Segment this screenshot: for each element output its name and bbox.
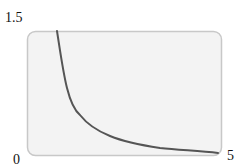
- y-axis-max-label: 1.5: [5, 11, 23, 25]
- chart-canvas: [0, 0, 239, 167]
- origin-label: 0: [13, 153, 20, 167]
- x-axis-max-label: 5: [227, 149, 234, 163]
- plot-area: [28, 32, 222, 156]
